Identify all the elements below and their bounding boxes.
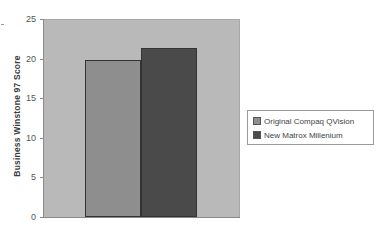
legend-label: Original Compaq QVision bbox=[264, 117, 354, 126]
y-tick bbox=[40, 98, 44, 99]
y-axis-line bbox=[43, 19, 44, 218]
stray-mark bbox=[1, 24, 4, 25]
bar-new-matrox-millenium bbox=[141, 48, 197, 217]
legend-swatch-icon bbox=[253, 117, 261, 125]
legend-item-millenium: New Matrox Millenium bbox=[253, 130, 343, 140]
y-tick bbox=[40, 59, 44, 60]
legend-label: New Matrox Millenium bbox=[264, 131, 343, 140]
y-tick-label: 15 bbox=[6, 93, 36, 103]
bar-original-compaq-qvision bbox=[85, 60, 141, 217]
x-axis-line bbox=[43, 217, 240, 218]
bar-chart: Business Winstone 97 Score 0510152025 Or… bbox=[0, 0, 377, 231]
y-tick bbox=[40, 19, 44, 20]
y-tick bbox=[40, 217, 44, 218]
y-tick-label: 20 bbox=[6, 54, 36, 64]
y-tick-label: 5 bbox=[6, 172, 36, 182]
y-tick bbox=[40, 138, 44, 139]
legend-swatch-icon bbox=[253, 131, 261, 139]
y-tick bbox=[40, 177, 44, 178]
y-tick-label: 0 bbox=[6, 212, 36, 222]
y-tick-label: 25 bbox=[6, 14, 36, 24]
legend-item-qvision: Original Compaq QVision bbox=[253, 116, 354, 126]
y-tick-label: 10 bbox=[6, 133, 36, 143]
legend: Original Compaq QVision New Matrox Mille… bbox=[247, 110, 374, 145]
